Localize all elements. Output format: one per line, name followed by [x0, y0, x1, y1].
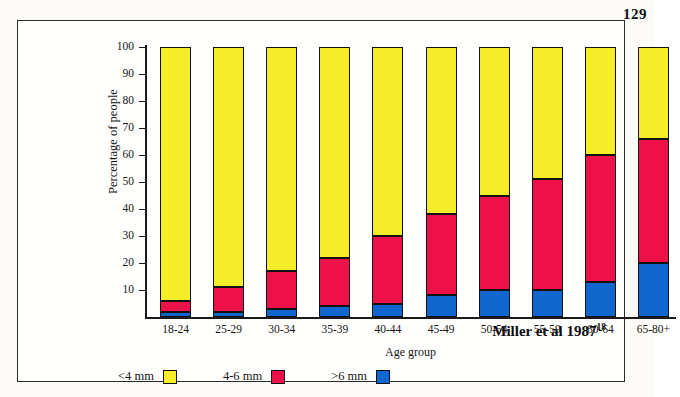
bar-segment	[372, 304, 403, 318]
page-number: 129	[623, 6, 647, 23]
x-axis-category-label: 45-49	[415, 323, 468, 335]
bar-segment	[426, 47, 457, 214]
bar-segment	[585, 282, 616, 317]
bar-segment	[638, 139, 669, 263]
stacked-bar	[585, 47, 616, 317]
legend-entry: 4-6 mm	[223, 369, 285, 384]
legend-color-swatch	[163, 370, 177, 384]
bar-segment	[638, 47, 669, 139]
bar-segment	[319, 47, 350, 258]
y-axis-tick	[139, 74, 146, 75]
stacked-bar	[213, 47, 244, 317]
legend-entry: <4 mm	[118, 369, 177, 384]
bar-segment	[372, 236, 403, 304]
bar-segment	[266, 309, 297, 317]
y-axis-tick	[139, 263, 146, 264]
legend-label: 4-6 mm	[223, 369, 262, 384]
stacked-bar	[319, 47, 350, 317]
bar-segment	[638, 263, 669, 317]
stacked-bar	[479, 47, 510, 317]
bar-segment	[532, 179, 563, 290]
stacked-bar	[426, 47, 457, 317]
citation: Miller et al 198718	[492, 322, 606, 340]
bar-segment	[160, 47, 191, 301]
legend-entry: >6 mm	[331, 369, 390, 384]
bar-segment	[319, 306, 350, 317]
y-axis-tick	[139, 236, 146, 237]
y-axis-tick	[139, 209, 146, 210]
bar-segment	[532, 290, 563, 317]
y-axis-tick	[139, 182, 146, 183]
stacked-bar	[532, 47, 563, 317]
legend-color-swatch	[376, 370, 390, 384]
bar-segment	[160, 312, 191, 317]
bar-segment	[213, 287, 244, 311]
x-axis-category-label: 40-44	[361, 323, 414, 335]
bar-segment	[585, 47, 616, 155]
y-axis-tick	[139, 47, 146, 48]
y-axis-tick-label: 10	[94, 283, 134, 295]
bar-segment	[426, 295, 457, 317]
bar-segment	[213, 312, 244, 317]
y-axis-tick	[139, 290, 146, 291]
stacked-bar	[638, 47, 669, 317]
bar-segment	[266, 271, 297, 309]
bar-segment	[372, 47, 403, 236]
x-axis-line	[145, 317, 676, 319]
stacked-bar	[372, 47, 403, 317]
x-axis-title: Age group	[145, 345, 676, 360]
y-axis-title: Percentage of people	[106, 47, 121, 237]
citation-text: Miller et al 1987	[492, 323, 596, 339]
stacked-bar	[160, 47, 191, 317]
bar-segment	[266, 47, 297, 271]
bar-segment	[585, 155, 616, 282]
bar-segment	[426, 214, 457, 295]
y-axis-tick	[139, 128, 146, 129]
legend-color-swatch	[271, 370, 285, 384]
chart-legend: <4 mm4-6 mm>6 mm	[118, 369, 390, 384]
x-axis-category-label: 65-80+	[627, 323, 680, 335]
legend-label: >6 mm	[331, 369, 367, 384]
y-axis-tick	[139, 101, 146, 102]
bar-segment	[479, 196, 510, 291]
bar-segment	[479, 47, 510, 196]
y-axis-tick-label: 20	[94, 256, 134, 268]
x-axis-category-label: 35-39	[308, 323, 361, 335]
y-axis-tick	[139, 155, 146, 156]
bar-segment	[479, 290, 510, 317]
plot-area: 102030405060708090100 Percentage of peop…	[82, 34, 610, 304]
citation-reference-number: 18	[597, 322, 607, 332]
x-axis-category-label: 18-24	[149, 323, 202, 335]
legend-label: <4 mm	[118, 369, 154, 384]
x-axis-category-label: 30-34	[255, 323, 308, 335]
x-axis-category-label: 25-29	[202, 323, 255, 335]
bar-segment	[319, 258, 350, 307]
figure-frame: 102030405060708090100 Percentage of peop…	[17, 20, 625, 382]
bar-segment	[213, 47, 244, 287]
bar-segment	[160, 301, 191, 312]
bar-segment	[532, 47, 563, 179]
stacked-bar	[266, 47, 297, 317]
